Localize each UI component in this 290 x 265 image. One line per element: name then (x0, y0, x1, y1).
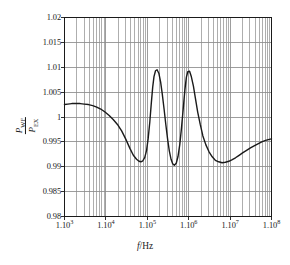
y-axis-tick-label: 1.02 (47, 14, 61, 22)
x-axis-tick-label: 1.105 (139, 222, 156, 230)
y-axis-tick-label: 1.01 (47, 64, 61, 72)
x-axis-tick-label: 1.104 (97, 222, 114, 230)
x-axis-tick-label: 1.107 (221, 222, 238, 230)
x-axis-tick-label: 1.106 (180, 222, 197, 230)
x-axis-tick-label: 1.103 (56, 222, 73, 230)
x-axis-title: f/Hz (0, 241, 290, 251)
y-axis-tick-label: 1 (57, 113, 61, 121)
y-axis-title-numerator: PWF (14, 117, 24, 134)
y-axis-tick-label: 1.015 (43, 39, 61, 47)
x-axis-tick-label: 1.108 (263, 222, 280, 230)
y-axis-tick-label: 0.99 (47, 163, 61, 171)
y-axis-title: PWF PEX (0, 96, 56, 156)
y-axis-tick-label: 0.985 (43, 188, 61, 196)
figure-panel: 1.021.0151.011.00510.9950.990.9850.98 1.… (0, 0, 290, 265)
y-axis-title-denominator: PEX (28, 118, 38, 134)
